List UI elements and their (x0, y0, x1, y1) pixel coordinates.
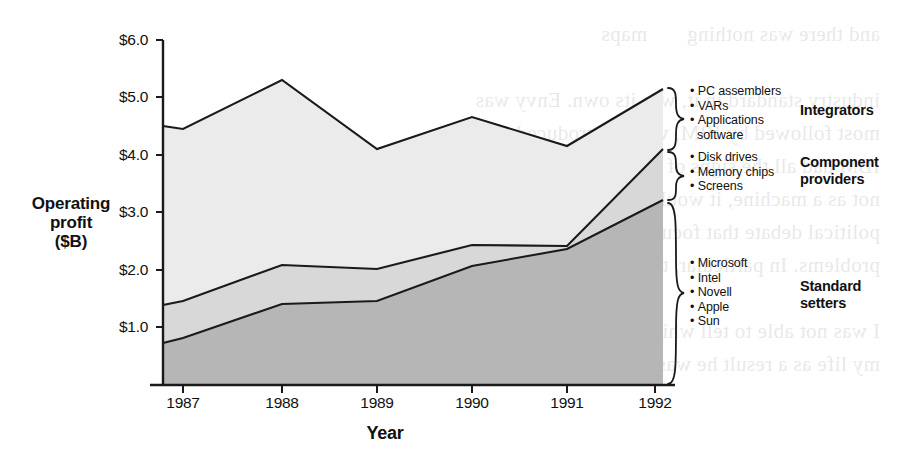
y-axis-title-line-1: Operating (6, 194, 136, 213)
annotation-standard-setters: • Microsoft • Intel • Novell • Apple • S… (690, 256, 747, 329)
list-item-label: Apple (698, 300, 729, 314)
annotation-title-line: Integrators (800, 102, 874, 119)
bullet-icon: • (690, 99, 698, 113)
bullet-icon: • (690, 256, 698, 270)
bullet-icon: • (690, 285, 698, 299)
annotation-title-line: setters (800, 295, 861, 312)
list-item: • Memory chips (690, 165, 774, 180)
y-tick-label-5: $5.0 (90, 88, 148, 106)
list-item-label: Disk drives (698, 150, 758, 164)
list-item-label: Memory chips (698, 165, 775, 179)
y-tick-label-4: $4.0 (90, 146, 148, 164)
x-tick-label-1991: 1991 (537, 394, 597, 412)
annotation-title-standard-setters: Standard setters (800, 278, 861, 311)
bullet-icon: • (690, 165, 698, 179)
bullet-icon: • (690, 300, 698, 314)
bullet-icon: • (690, 150, 698, 164)
brace-component-providers (668, 152, 684, 200)
list-item-label: Intel (698, 271, 721, 285)
y-tick-label-2: $2.0 (90, 261, 148, 279)
annotation-standard-setters-items: • Microsoft • Intel • Novell • Apple • S… (690, 256, 747, 329)
list-item-label: Novell (698, 285, 732, 299)
list-item-label: Microsoft (698, 256, 748, 270)
annotation-integrators: • PC assemblers • VARs • Applications so… (690, 84, 781, 142)
y-axis-title: Operating profit ($B) (6, 194, 136, 251)
list-item: • Apple (690, 300, 747, 315)
annotation-title-line: Component (800, 154, 879, 171)
annotation-component-providers: • Disk drives • Memory chips • Screens (690, 150, 774, 194)
bullet-icon: • (690, 314, 698, 328)
brace-group (668, 88, 684, 384)
list-item-label: Screens (698, 179, 743, 193)
x-axis-title: Year (330, 424, 440, 443)
annotation-integrators-items: • PC assemblers • VARs • Applications so… (690, 84, 781, 142)
list-item-label: VARs (698, 99, 729, 113)
x-tick-label-1987: 1987 (153, 394, 213, 412)
list-item: • Screens (690, 179, 774, 194)
list-item: • PC assemblers (690, 84, 781, 99)
list-item-label: Sun (698, 314, 720, 328)
x-tick-label-1990: 1990 (442, 394, 502, 412)
list-item: • Sun (690, 314, 747, 329)
list-item-label: Applications (698, 113, 764, 127)
list-item-label: PC assemblers (698, 84, 781, 98)
annotation-title-component-providers: Component providers (800, 154, 879, 187)
brace-integrators (668, 88, 684, 150)
list-item: • Applications (690, 113, 781, 128)
y-axis-title-line-3: ($B) (6, 232, 136, 251)
annotation-component-providers-items: • Disk drives • Memory chips • Screens (690, 150, 774, 194)
annotation-title-integrators: Integrators (800, 102, 874, 119)
y-axis-title-line-2: profit (6, 213, 136, 232)
annotation-title-line: providers (800, 171, 879, 188)
bullet-icon: • (690, 113, 698, 127)
list-item: • Intel (690, 271, 747, 286)
list-item: • Disk drives (690, 150, 774, 165)
y-tick-label-1: $1.0 (90, 318, 148, 336)
bullet-icon: • (690, 271, 698, 285)
list-item: • Novell (690, 285, 747, 300)
bullet-icon: • (690, 84, 698, 98)
bullet-icon: • (690, 179, 698, 193)
annotation-title-line: Standard (800, 278, 861, 295)
list-item: • VARs (690, 99, 781, 114)
brace-standard-setters (668, 203, 684, 384)
x-tick-label-1988: 1988 (252, 394, 312, 412)
x-axis-ticks (183, 385, 655, 393)
list-item-continuation: software (690, 128, 781, 143)
chart-figure: $6.0 $5.0 $4.0 $3.0 $2.0 $1.0 1987 1988 … (0, 0, 906, 468)
x-tick-label-1992: 1992 (625, 394, 685, 412)
y-tick-label-6: $6.0 (90, 31, 148, 49)
list-item: • Microsoft (690, 256, 747, 271)
x-tick-label-1989: 1989 (347, 394, 407, 412)
